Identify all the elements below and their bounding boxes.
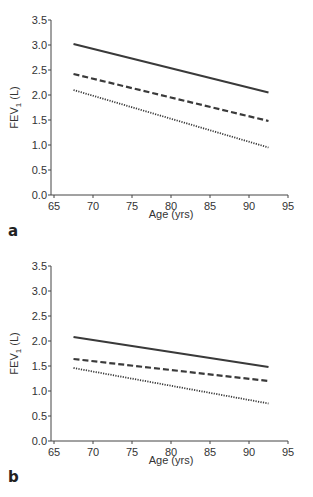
- y-tick-label: 2.5: [32, 64, 47, 76]
- panel-label: b: [8, 468, 19, 486]
- y-tick-label: 2.5: [32, 310, 47, 322]
- x-tick-label: 75: [126, 446, 138, 458]
- y-axis-label-main: FEV: [8, 107, 20, 129]
- y-axis-label-main: FEV: [8, 353, 20, 375]
- panel-label: a: [8, 222, 18, 240]
- y-tick-label: 0.0: [32, 435, 47, 447]
- x-tick-label: 70: [87, 446, 99, 458]
- series-line-dashed: [74, 74, 269, 121]
- y-tick-label: 3.0: [32, 39, 47, 51]
- series-line-solid: [74, 44, 269, 93]
- y-tick-label: 1.0: [32, 385, 47, 397]
- y-tick-label: 1.0: [32, 139, 47, 151]
- y-tick-label: 0.5: [32, 164, 47, 176]
- y-tick-label: 0.5: [32, 410, 47, 422]
- x-tick-label: 90: [243, 200, 255, 212]
- x-tick-label: 70: [87, 200, 99, 212]
- y-axis-label: FEV1 (L): [8, 332, 23, 374]
- y-tick-label: 3.5: [32, 14, 47, 26]
- x-tick-label: 95: [282, 200, 294, 212]
- x-tick-label: 75: [126, 200, 138, 212]
- y-tick-label: 3.0: [32, 285, 47, 297]
- x-tick-label: 90: [243, 446, 255, 458]
- x-axis-label: Age (yrs): [149, 208, 194, 220]
- x-tick-label: 65: [48, 200, 60, 212]
- series-line-dotted: [74, 368, 269, 404]
- x-tick-label: 85: [204, 446, 216, 458]
- y-tick-label: 1.5: [32, 360, 47, 372]
- y-tick-label: 0.0: [32, 189, 47, 201]
- y-axis-label-unit: (L): [8, 86, 20, 103]
- y-tick-label: 1.5: [32, 114, 47, 126]
- y-tick-label: 2.0: [32, 89, 47, 101]
- y-tick-label: 3.5: [32, 260, 47, 272]
- x-tick-label: 95: [282, 446, 294, 458]
- x-axis-label: Age (yrs): [149, 454, 194, 466]
- y-tick-label: 2.0: [32, 335, 47, 347]
- y-axis-label: FEV1 (L): [8, 86, 23, 128]
- x-tick-label: 85: [204, 200, 216, 212]
- x-tick-label: 65: [48, 446, 60, 458]
- y-axis-label-unit: (L): [8, 332, 20, 349]
- figure: 0.00.51.01.52.02.53.03.565707580859095Ag…: [0, 0, 313, 497]
